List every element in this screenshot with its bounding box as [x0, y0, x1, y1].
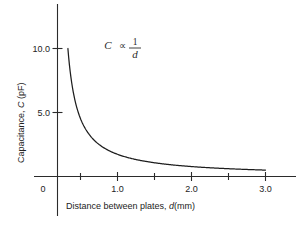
- annotation-operator: ∝: [119, 40, 126, 51]
- annotation-numerator: 1: [133, 37, 138, 47]
- y-axis-title: Capacitance, C (pF): [16, 82, 26, 163]
- x-tick-label-3-0: 3.0: [259, 184, 272, 194]
- annotation-denominator: d: [132, 48, 138, 60]
- y-tick-label-5: 5.0: [37, 108, 50, 118]
- y-axis-title-prefix: Capacitance,: [16, 108, 26, 163]
- capacitance-vs-distance-figure: 10.0 5.0 0 1.0 2.0 3.0 Distance between …: [0, 0, 303, 226]
- chart-canvas: 10.0 5.0 0 1.0 2.0 3.0 Distance between …: [0, 0, 303, 226]
- x-axis-title: Distance between plates, d(mm): [66, 201, 195, 211]
- x-tick-label-1-0: 1.0: [111, 184, 124, 194]
- annotation-variable: C: [104, 39, 112, 51]
- x-tick-label-0: 0: [40, 184, 45, 194]
- x-axis-title-prefix: Distance between plates,: [66, 201, 169, 211]
- y-axis-title-suffix: (pF): [16, 82, 26, 101]
- x-axis-title-suffix: (mm): [174, 201, 195, 211]
- y-tick-label-10: 10.0: [32, 44, 50, 54]
- x-tick-label-2-0: 2.0: [185, 184, 198, 194]
